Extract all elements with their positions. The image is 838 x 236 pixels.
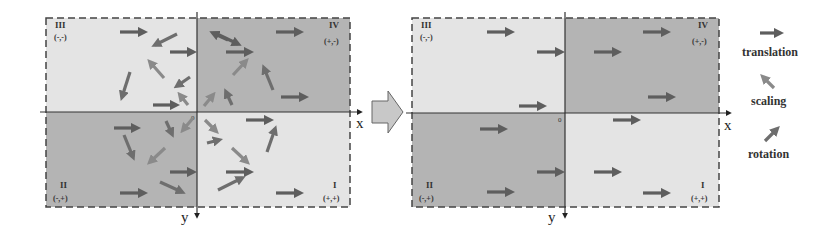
quadrant-i-label: I xyxy=(701,180,705,190)
legend-label-translation: translation xyxy=(742,45,798,59)
legend-label-scaling: scaling xyxy=(751,94,786,108)
quadrant-iv-sign: (+,-) xyxy=(692,37,707,46)
quadrant-iv-label: IV xyxy=(698,20,709,30)
transition-arrow-icon xyxy=(372,91,403,133)
quadrant-iii-sign: (-,-) xyxy=(420,33,433,42)
quadrant-ii-label: II xyxy=(60,180,68,190)
quadrant-iv-label: IV xyxy=(329,20,340,30)
transformation-diagram: x y 0 III (-,-) IV (+,-) II (-,+) I (+,+… xyxy=(0,0,838,236)
quadrant-i-sign: (+,+) xyxy=(323,194,340,203)
legend-label-rotation: rotation xyxy=(748,147,789,161)
quadrant-ii-sign: (-,+) xyxy=(53,194,68,203)
x-axis-label: x xyxy=(356,115,364,131)
quadrant-iv-sign: (+,-) xyxy=(324,37,339,46)
scaling-arrow-icon xyxy=(763,77,774,88)
quadrant-iv-region xyxy=(197,18,350,112)
quadrant-i-region xyxy=(197,112,350,207)
quadrant-ii-sign: (-,+) xyxy=(419,194,434,203)
quadrant-i-region xyxy=(565,113,719,207)
quadrant-i-sign: (+,+) xyxy=(691,194,708,203)
y-axis-label: y xyxy=(548,209,556,225)
x-axis-label: x xyxy=(724,117,732,133)
quadrant-iii-label: III xyxy=(55,20,66,30)
rotation-arrow-icon xyxy=(765,129,777,141)
quadrant-iii-label: III xyxy=(421,20,432,30)
quadrant-i-label: I xyxy=(333,180,337,190)
quadrant-ii-label: II xyxy=(426,180,434,190)
quadrant-iii-sign: (-,-) xyxy=(54,33,67,42)
legend: translation scaling rotation xyxy=(742,33,798,161)
y-axis-label: y xyxy=(181,209,189,225)
quadrant-iv-region xyxy=(565,18,719,113)
origin-label: 0 xyxy=(558,116,562,124)
right-panel-after: x y 0 III (-,-) IV (+,-) II (-,+) I (+,+… xyxy=(406,12,732,225)
left-panel-before: x y 0 III (-,-) IV (+,-) II (-,+) I (+,+… xyxy=(40,12,364,225)
